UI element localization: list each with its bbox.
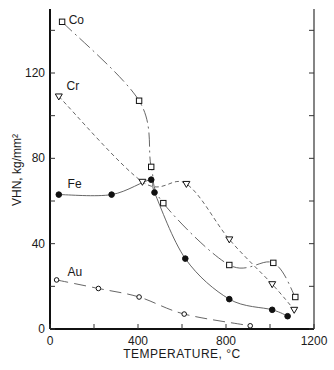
curve-fe — [59, 180, 288, 317]
hardness-vs-temperature-chart: 0400800120004080120 CoCrFeAu TEMPERATURE… — [0, 0, 334, 370]
y-tick-label: 80 — [32, 151, 46, 165]
marker-au — [96, 286, 101, 291]
marker-co — [149, 164, 154, 169]
series-labels: CoCrFeAu — [67, 13, 85, 279]
x-tick-label: 0 — [47, 334, 54, 348]
curve-co — [62, 22, 295, 297]
marker-fe — [152, 190, 158, 196]
marker-fe — [183, 256, 189, 262]
marker-cr — [291, 307, 298, 313]
marker-fe — [56, 192, 62, 198]
marker-fe — [227, 296, 233, 302]
marker-cr — [139, 179, 146, 185]
series-label-au: Au — [68, 265, 83, 279]
x-tick-label: 400 — [128, 334, 148, 348]
marker-co — [293, 294, 298, 299]
x-tick-label: 1200 — [301, 334, 328, 348]
marker-au — [137, 295, 142, 300]
series-label-co: Co — [69, 13, 85, 27]
series-curves — [57, 22, 296, 326]
marker-co — [136, 98, 141, 103]
y-axis-title: VHN, kg/mm² — [10, 134, 24, 206]
marker-co — [227, 262, 232, 267]
series-label-fe: Fe — [68, 177, 82, 191]
marker-au — [182, 312, 187, 317]
series-label-cr: Cr — [67, 79, 80, 93]
marker-au — [54, 278, 59, 283]
curve-cr — [59, 96, 294, 309]
x-axis-title: TEMPERATURE, °C — [123, 347, 240, 361]
marker-fe — [269, 307, 275, 313]
y-tick-label: 40 — [32, 237, 46, 251]
marker-fe — [148, 177, 154, 183]
y-tick-label: 0 — [38, 322, 45, 336]
marker-co — [161, 200, 166, 205]
marker-au — [248, 324, 253, 329]
marker-cr — [183, 181, 190, 187]
marker-co — [59, 19, 64, 24]
curve-au — [57, 280, 251, 326]
marker-co — [271, 260, 276, 265]
x-tick-label: 800 — [216, 334, 236, 348]
marker-fe — [109, 192, 115, 198]
marker-fe — [285, 313, 291, 319]
series-markers — [54, 19, 298, 328]
y-tick-label: 120 — [25, 66, 45, 80]
